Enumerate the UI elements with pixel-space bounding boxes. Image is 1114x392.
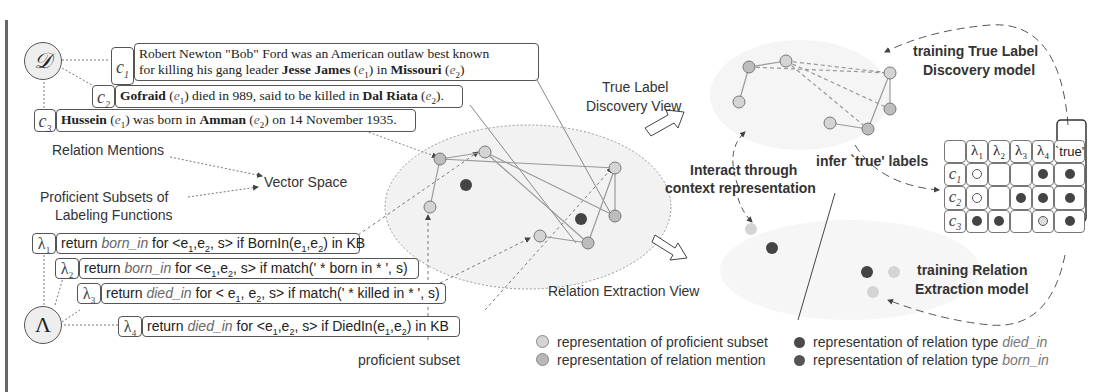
training-re-label: training Relation: [917, 262, 1027, 278]
matrix-cell: [988, 163, 1010, 186]
interact-label: Interact through: [690, 162, 797, 178]
node: [582, 237, 594, 249]
node: [743, 61, 755, 73]
true-label-cloud: [710, 40, 890, 150]
relation-type-node: [460, 179, 472, 191]
matrix-row: c2: [944, 186, 1085, 209]
matrix-cell: [966, 163, 988, 186]
filled-dot-icon: [1016, 193, 1026, 203]
matrix-cell: [1032, 210, 1054, 233]
dataset-circle: 𝒟: [24, 42, 62, 80]
node: [884, 103, 896, 115]
mention-tag: c1: [111, 47, 134, 85]
filled-dot-icon: [994, 216, 1004, 226]
labeling-functions-label: Labeling Functions: [55, 207, 173, 223]
legend-item: representation of relation type died_in: [794, 334, 1047, 350]
node: [733, 96, 745, 108]
relation-type-node: [861, 266, 873, 278]
matrix-cell: [988, 210, 1010, 233]
matrix-header: [944, 140, 966, 163]
node: [434, 153, 446, 165]
matrix-header: λ1: [966, 140, 988, 163]
true-label-view-label: True Label: [602, 79, 668, 95]
matrix-cell: [966, 210, 988, 233]
node: [424, 201, 436, 213]
node: [884, 67, 896, 79]
lf-tag: λ4: [118, 316, 142, 337]
proficient-subsets-label: Proficient Subsets of: [40, 189, 168, 205]
node: [780, 55, 792, 67]
legend-swatch-icon: [536, 353, 549, 366]
mention-tag: c3: [34, 109, 56, 132]
matrix-header: `true': [1054, 140, 1085, 163]
training-tld-label: training True Label: [913, 43, 1038, 59]
lf-tag: λ1: [32, 233, 56, 254]
hollow-dot-icon: [972, 193, 982, 203]
legend-swatch-icon: [794, 337, 805, 348]
node: [609, 210, 621, 222]
lf-tag: λ2: [55, 258, 79, 279]
hollow-dot-icon: [972, 169, 982, 179]
matrix-cell: [1010, 210, 1032, 233]
matrix-cell: [966, 186, 988, 209]
filled-dot-icon: [1065, 169, 1075, 179]
relation-type-node: [575, 213, 587, 225]
matrix-cell: [1054, 210, 1085, 233]
matrix-row: c1: [944, 163, 1085, 186]
matrix-row-label: c2: [944, 186, 966, 209]
matrix-cell: [1032, 163, 1054, 186]
node: [609, 162, 621, 174]
mention-sentence: Robert Newton "Bob" Ford was an American…: [134, 43, 539, 81]
interact-down-arrow: [738, 198, 752, 222]
filled-dot-icon: [1038, 169, 1048, 179]
matrix-row-label: c3: [944, 210, 966, 233]
legend-item: representation of proficient subset: [536, 334, 768, 350]
to-relation-extraction-arrow: [652, 235, 687, 260]
labeling-function: return died_in for <e1,e2, s> if DiedIn(…: [142, 316, 460, 337]
node: [862, 123, 874, 135]
legend-item: representation of relation type born_in: [794, 352, 1049, 368]
node: [745, 223, 757, 235]
matrix-cell: [1032, 186, 1054, 209]
labeling-function: return born_in for <e1,e2, s> if match('…: [79, 258, 419, 279]
filled-dot-icon: [972, 216, 982, 226]
interact-label-2: context representation: [665, 180, 816, 196]
relation-type-node: [766, 242, 778, 254]
proficient-subset-label: proficient subset: [358, 352, 460, 368]
training-re-label-2: Extraction model: [915, 281, 1029, 297]
matrix-cell: [1010, 163, 1032, 186]
legend-item: representation of relation mention: [536, 352, 766, 368]
legend-swatch-icon: [536, 335, 549, 348]
matrix-cell: [1054, 186, 1085, 209]
node: [867, 286, 879, 298]
training-tld-label-2: Discovery model: [923, 62, 1035, 78]
mention-tag: c2: [92, 85, 115, 108]
true-label-view-label-2: Discovery View: [586, 98, 681, 114]
node: [479, 146, 491, 158]
matrix-header: λ4: [1032, 140, 1054, 163]
matrix-row: c3: [944, 210, 1085, 233]
node: [888, 266, 900, 278]
infer-true-labels-label: infer `true' labels: [816, 153, 928, 169]
filled-dot-icon: [1038, 193, 1048, 203]
matrix-cell: [988, 186, 1010, 209]
filled-dot-icon: [1065, 216, 1075, 226]
matrix-cell: [1054, 163, 1085, 186]
node: [534, 230, 546, 242]
labeling-function: return died_in for < e1, e2, s> if match…: [101, 283, 446, 304]
node: [824, 117, 836, 129]
mention-sentence: Gofraid (e1) died in 989, said to be kil…: [115, 85, 463, 108]
labeling-functions-circle: Λ: [24, 306, 62, 344]
matrix-header: λ3: [1010, 140, 1032, 163]
matrix-row-label: c1: [944, 163, 966, 186]
label-matrix: λ1λ2λ3λ4`true'c1c2c3: [944, 140, 1085, 233]
relation-mentions-label: Relation Mentions: [52, 142, 164, 158]
lf-tag: λ3: [77, 283, 101, 304]
matrix-header: λ2: [988, 140, 1010, 163]
hollow-dot-icon: [1038, 216, 1048, 226]
legend-swatch-icon: [794, 355, 805, 366]
vector-space-label: Vector Space: [264, 174, 347, 190]
labeling-function: return born_in for <e1,e2, s> if BornIn(…: [56, 233, 360, 254]
relation-extraction-view-label: Relation Extraction View: [548, 283, 699, 299]
filled-dot-icon: [1065, 193, 1075, 203]
